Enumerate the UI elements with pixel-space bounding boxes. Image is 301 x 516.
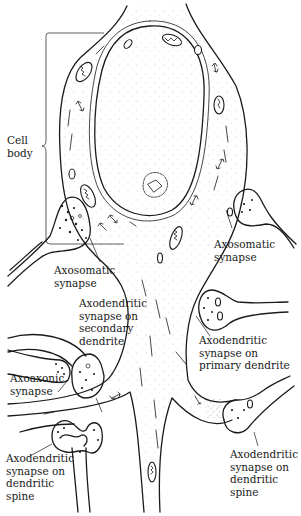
neuron-outline — [8, 4, 247, 512]
synapse-axodendritic-primary — [199, 290, 288, 330]
label-axosomatic-synapse-left: Axosomatic synapse — [54, 264, 115, 289]
label-axodendritic-secondary-dendrite: Axodendritic synapse on secondary dendri… — [79, 297, 147, 347]
label-cell-body: Cell body — [7, 134, 33, 159]
label-axodendritic-dendritic-spine-right: Axodendritic synapse on dendritic spine — [230, 448, 298, 498]
label-axosomatic-synapse-right: Axosomatic synapse — [214, 238, 275, 263]
label-axodendritic-primary-dendrite: Axodendritic synapse on primary dendrite — [199, 334, 290, 372]
label-axoaxonic-synapse: Axoaxonic synapse — [10, 372, 64, 397]
synapse-axodendritic-spine-left — [52, 421, 102, 453]
label-axodendritic-dendritic-spine-left: Axodendritic synapse on dendritic spine — [6, 452, 74, 502]
